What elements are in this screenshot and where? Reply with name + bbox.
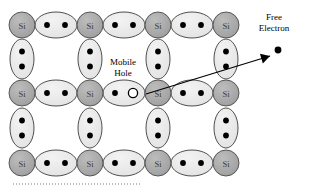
bond-ellipse [103,12,145,38]
electron-dot [62,90,68,96]
atom-label: Si [222,159,230,169]
mobile-hole-marker [128,88,137,97]
horizontal-bond [35,80,77,106]
bond-ellipse [171,150,213,176]
electron-dot [198,22,204,28]
bond-ellipse [146,108,170,148]
silicon-atom: Si [145,150,171,176]
silicon-atom: Si [9,12,35,38]
electron-dot [44,160,50,166]
atom-label: Si [18,89,26,99]
electron-dot [155,49,161,55]
silicon-atom: Si [77,12,103,38]
mobile-hole-label: Mobile Hole [96,57,150,78]
atom-label: Si [222,21,230,31]
silicon-atom: Si [9,150,35,176]
atom-label: Si [154,159,162,169]
atom-label: Si [86,89,94,99]
silicon-atom: Si [213,12,239,38]
vertical-bond [214,108,238,148]
bond-ellipse [214,108,238,148]
atom-label: Si [86,159,94,169]
electron-dot [112,90,118,96]
silicon-atom: Si [77,150,103,176]
electron-dot [180,22,186,28]
electron-dot [198,160,204,166]
electron-dot [155,133,161,139]
electron-dot [112,22,118,28]
electron-dot [223,49,229,55]
vertical-bond [10,39,34,79]
free-electron-label-line1: Free [243,12,305,23]
silicon-atom: Si [145,12,171,38]
bond-ellipse [35,80,77,106]
horizontal-bond [103,12,145,38]
bond-ellipse [171,12,213,38]
figure-canvas: SiSiSiSiSiSiSiSiSiSiSiSi Mobile Hole Fre… [0,0,315,192]
electron-dot [155,118,161,124]
free-electron-label: Free Electron [243,12,305,33]
bond-ellipse [214,39,238,79]
electron-dot [180,160,186,166]
atom-label: Si [86,21,94,31]
electron-dot [112,160,118,166]
electron-dot [19,64,25,70]
electron-dot [87,133,93,139]
free-electron-dot [275,47,282,54]
mobile-hole-label-line2: Hole [96,68,150,79]
atom-label: Si [18,21,26,31]
electron-trajectory-arrow-head [260,54,270,64]
electron-dot [62,22,68,28]
vertical-bond [10,108,34,148]
silicon-atom: Si [213,150,239,176]
electron-dot [223,133,229,139]
bond-ellipse [35,12,77,38]
electron-dot [44,90,50,96]
silicon-atom: Si [9,80,35,106]
silicon-atom: Si [77,80,103,106]
bond-ellipse [103,150,145,176]
electron-dot [87,118,93,124]
bond-ellipse [78,108,102,148]
electron-dot [223,118,229,124]
bond-ellipse [103,80,145,106]
electron-dot [87,64,93,70]
electron-dot [130,160,136,166]
bond-ellipse [10,39,34,79]
electron-dot [44,22,50,28]
electron-dot [180,90,186,96]
electron-dot [19,118,25,124]
vertical-bond [146,108,170,148]
bond-ellipse [35,150,77,176]
horizontal-bond [103,150,145,176]
horizontal-bond [171,150,213,176]
horizontal-bonds-layer [35,12,213,176]
bond-ellipse [10,108,34,148]
mobile-hole-label-line1: Mobile [96,57,150,68]
horizontal-bond [171,12,213,38]
silicon-atom: Si [213,80,239,106]
electron-dot [155,64,161,70]
electron-dot [62,160,68,166]
atom-label: Si [154,21,162,31]
electron-dot [130,22,136,28]
atom-label: Si [18,159,26,169]
electron-dot [198,90,204,96]
vertical-bond [78,108,102,148]
atom-label: Si [222,89,230,99]
horizontal-bond [35,12,77,38]
free-electron-label-line2: Electron [243,23,305,34]
horizontal-bond [35,150,77,176]
electron-dot [87,49,93,55]
vertical-bond [214,39,238,79]
electron-dot [19,133,25,139]
horizontal-bond [103,80,145,106]
electron-dot [19,49,25,55]
